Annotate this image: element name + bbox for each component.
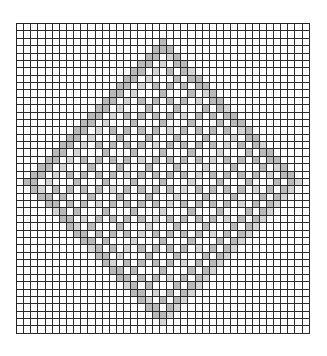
grid-cell — [181, 157, 188, 164]
grid-cell — [138, 275, 145, 282]
grid-cell — [38, 319, 45, 326]
grid-cell — [253, 90, 260, 97]
grid-cell — [46, 39, 53, 46]
grid-cell — [67, 127, 74, 134]
grid-cell — [88, 304, 95, 311]
grid-cell — [146, 76, 153, 83]
grid-cell — [260, 98, 267, 105]
grid-cell — [167, 238, 174, 245]
grid-cell — [288, 127, 295, 134]
grid-cell — [60, 113, 67, 120]
grid-cell — [217, 164, 224, 171]
grid-cell — [267, 149, 274, 156]
grid-cell — [174, 31, 181, 38]
grid-cell — [246, 312, 253, 319]
grid-cell — [160, 260, 167, 267]
grid-cell — [131, 304, 138, 311]
grid-cell — [38, 54, 45, 61]
grid-cell — [31, 231, 38, 238]
grid-cell — [274, 223, 281, 230]
grid-cell — [96, 68, 103, 75]
grid-cell — [181, 238, 188, 245]
grid-cell — [146, 90, 153, 97]
grid-cell — [74, 31, 81, 38]
grid-cell — [117, 253, 124, 260]
grid-cell — [231, 216, 238, 223]
grid-cell — [260, 172, 267, 179]
grid-cell — [295, 290, 302, 297]
grid-cell — [188, 282, 195, 289]
grid-cell — [167, 39, 174, 46]
grid-cell — [31, 120, 38, 127]
grid-cell — [267, 290, 274, 297]
grid-cell — [153, 83, 160, 90]
grid-cell — [231, 304, 238, 311]
grid-cell — [260, 326, 267, 333]
grid-cell — [88, 238, 95, 245]
grid-cell — [174, 61, 181, 68]
grid-cell — [138, 194, 145, 201]
grid-cell — [153, 68, 160, 75]
grid-cell — [224, 98, 231, 105]
grid-cell — [167, 90, 174, 97]
grid-cell — [138, 260, 145, 267]
grid-cell — [81, 127, 88, 134]
grid-cell — [96, 76, 103, 83]
grid-cell — [238, 238, 245, 245]
grid-cell — [110, 24, 117, 31]
grid-cell — [110, 275, 117, 282]
grid-cell — [131, 98, 138, 105]
grid-cell — [17, 39, 24, 46]
grid-cell — [203, 186, 210, 193]
grid-cell — [288, 326, 295, 333]
grid-cell — [281, 312, 288, 319]
grid-cell — [274, 113, 281, 120]
grid-cell — [260, 297, 267, 304]
grid-cell — [146, 83, 153, 90]
grid-cell — [138, 127, 145, 134]
grid-cell — [17, 113, 24, 120]
grid-cell — [81, 238, 88, 245]
grid-cell — [238, 149, 245, 156]
grid-cell — [146, 120, 153, 127]
grid-cell — [246, 120, 253, 127]
grid-cell — [288, 208, 295, 215]
grid-cell — [295, 194, 302, 201]
grid-cell — [295, 157, 302, 164]
grid-cell — [81, 282, 88, 289]
grid-cell — [117, 208, 124, 215]
grid-cell — [88, 194, 95, 201]
grid-cell — [246, 90, 253, 97]
grid-cell — [167, 31, 174, 38]
grid-cell — [74, 260, 81, 267]
grid-cell — [146, 223, 153, 230]
grid-cell — [181, 46, 188, 53]
grid-cell — [295, 201, 302, 208]
grid-cell — [53, 238, 60, 245]
grid-cell — [117, 260, 124, 267]
grid-cell — [103, 31, 110, 38]
grid-cell — [31, 83, 38, 90]
grid-cell — [203, 83, 210, 90]
grid-cell — [188, 24, 195, 31]
grid-cell — [238, 83, 245, 90]
grid-cell — [96, 164, 103, 171]
grid-cell — [253, 46, 260, 53]
grid-cell — [131, 260, 138, 267]
grid-cell — [53, 208, 60, 215]
grid-cell — [224, 201, 231, 208]
grid-cell — [231, 113, 238, 120]
grid-cell — [231, 194, 238, 201]
grid-cell — [303, 46, 310, 53]
grid-cell — [17, 157, 24, 164]
grid-cell — [281, 68, 288, 75]
grid-cell — [203, 282, 210, 289]
grid-cell — [231, 120, 238, 127]
grid-cell — [174, 142, 181, 149]
grid-cell — [203, 31, 210, 38]
grid-cell — [274, 290, 281, 297]
grid-cell — [124, 312, 131, 319]
grid-cell — [224, 83, 231, 90]
grid-cell — [131, 142, 138, 149]
grid-cell — [146, 157, 153, 164]
